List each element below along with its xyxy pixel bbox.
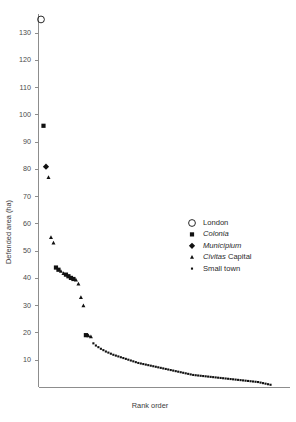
data-point <box>167 368 169 370</box>
data-point <box>260 382 262 384</box>
legend-marker-open-circle <box>189 220 196 227</box>
data-point <box>220 377 222 379</box>
legend-marker-small-dot <box>191 268 193 270</box>
data-point <box>187 373 189 375</box>
data-point <box>262 382 264 384</box>
data-point <box>135 361 137 363</box>
data-point <box>81 303 85 307</box>
data-point <box>155 366 157 368</box>
data-point <box>51 241 55 245</box>
y-tick-label-80: 80 <box>23 164 31 173</box>
y-tick-label-100: 100 <box>19 110 31 119</box>
data-point <box>43 164 49 170</box>
data-point <box>137 362 139 364</box>
data-point <box>215 376 217 378</box>
data-point <box>200 375 202 377</box>
data-point <box>117 355 119 357</box>
data-point <box>180 371 182 373</box>
data-point <box>235 379 237 381</box>
data-point <box>115 355 117 357</box>
data-point <box>245 380 247 382</box>
legend-label-london: London <box>203 218 228 227</box>
series-civitas-capital <box>46 175 92 338</box>
data-point <box>170 369 172 371</box>
data-point <box>110 353 112 355</box>
data-point <box>142 363 144 365</box>
data-point <box>76 282 80 286</box>
y-tick-label-90: 90 <box>23 137 31 146</box>
data-point <box>112 354 114 356</box>
data-point <box>122 357 124 359</box>
data-point <box>267 383 269 385</box>
legend-item-civitas: Civitas Capital <box>190 252 252 261</box>
y-tick-label-30: 30 <box>23 301 31 310</box>
data-point <box>185 372 187 374</box>
data-point <box>41 124 45 128</box>
legend-marker-filled-square <box>190 232 194 236</box>
data-point <box>102 349 104 351</box>
legend-marker-filled-triangle <box>190 255 194 259</box>
data-point <box>237 379 239 381</box>
y-axis: 102030405060708090100110120130 <box>19 14 39 387</box>
legend-item-london: London <box>189 218 229 227</box>
y-tick-label-50: 50 <box>23 246 31 255</box>
data-point <box>205 375 207 377</box>
data-point <box>125 358 127 360</box>
data-point <box>217 377 219 379</box>
data-point <box>46 175 50 179</box>
data-point <box>162 367 164 369</box>
data-point <box>127 359 129 361</box>
data-point <box>105 350 107 352</box>
data-point <box>157 366 159 368</box>
legend-item-smalltown: Small town <box>191 264 240 273</box>
data-point <box>182 372 184 374</box>
data-point <box>232 378 234 380</box>
data-point <box>160 367 162 369</box>
data-point <box>175 370 177 372</box>
data-point <box>269 384 271 386</box>
legend-marker-filled-diamond <box>189 243 195 249</box>
data-point <box>242 379 244 381</box>
series-colonia <box>41 124 88 338</box>
data-point <box>210 376 212 378</box>
y-tick-label-130: 130 <box>19 28 31 37</box>
data-point <box>132 360 134 362</box>
x-axis-title: Rank order <box>132 401 169 410</box>
data-point <box>92 342 94 344</box>
data-point <box>120 356 122 358</box>
data-point <box>250 380 252 382</box>
data-point <box>152 365 154 367</box>
series-small-town <box>92 342 271 386</box>
legend-label-municipium: Municipium <box>203 241 241 250</box>
data-point <box>165 368 167 370</box>
y-tick-label-110: 110 <box>20 83 31 92</box>
chart-figure: 102030405060708090100110120130 Defended … <box>0 0 296 422</box>
data-point <box>190 373 192 375</box>
data-point <box>97 346 99 348</box>
data-point <box>264 383 266 385</box>
legend-item-colonia: Colonia <box>190 229 229 238</box>
legend-label-colonia: Colonia <box>203 229 229 238</box>
data-point <box>107 352 109 354</box>
y-tick-label-40: 40 <box>23 273 31 282</box>
legend-label-smalltown: Small town <box>203 264 240 273</box>
data-point <box>150 365 152 367</box>
y-tick-label-60: 60 <box>23 219 31 228</box>
y-axis-title: Defended area (ha) <box>4 200 13 264</box>
data-point <box>230 378 232 380</box>
data-point <box>130 359 132 361</box>
y-tick-label-20: 20 <box>23 328 31 337</box>
data-point <box>197 374 199 376</box>
legend-item-municipium: Municipium <box>189 241 242 250</box>
data-point <box>255 381 257 383</box>
data-point <box>49 235 53 239</box>
data-point <box>227 378 229 380</box>
y-tick-label-10: 10 <box>23 355 31 364</box>
data-point <box>95 344 97 346</box>
data-point <box>240 379 242 381</box>
data-point <box>172 370 174 372</box>
data-point <box>212 376 214 378</box>
data-point <box>177 371 179 373</box>
y-tick-label-120: 120 <box>19 55 31 64</box>
data-point <box>79 295 83 299</box>
